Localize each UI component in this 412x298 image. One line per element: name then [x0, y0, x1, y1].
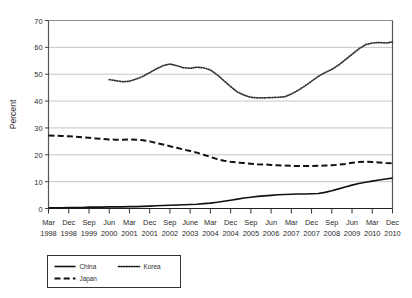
y-tick-label: 20 — [34, 151, 42, 160]
x-tick-label-year: 2009 — [344, 229, 360, 238]
x-tick-label-year: 2004 — [222, 229, 238, 238]
x-tick-label-month: Mar — [204, 218, 217, 227]
y-tick-label: 70 — [34, 17, 42, 26]
chart-legend: ChinaKoreaJapan — [48, 256, 181, 288]
x-tick-label-year: 1998 — [61, 229, 77, 238]
y-tick-label: 0 — [38, 205, 42, 214]
x-tick-label-month: Dec — [143, 218, 156, 227]
x-tick-label-month: Sep — [244, 218, 257, 227]
y-axis-ticks: 010203040506070 — [34, 17, 48, 214]
x-tick-label-year: 1998 — [40, 229, 56, 238]
x-tick-label-year: 1999 — [81, 229, 97, 238]
y-axis-title: Percent — [8, 99, 18, 129]
chart-container: 010203040506070 Mar1998Dec1998Sep1999Jun… — [0, 0, 412, 298]
y-tick-label: 40 — [34, 97, 42, 106]
plot-frame — [49, 21, 393, 209]
y-tick-label: 60 — [34, 43, 42, 52]
x-tick-label-year: 2006 — [263, 229, 279, 238]
x-tick-label-month: Mar — [123, 218, 136, 227]
x-tick-label-year: 2000 — [101, 229, 117, 238]
x-axis-ticks: Mar1998Dec1998Sep1999Jun2000Mar2001Dec20… — [40, 209, 400, 238]
legend-box — [48, 256, 181, 288]
x-tick-label-month: Jun — [265, 218, 277, 227]
x-tick-label-year: 2004 — [202, 229, 218, 238]
x-tick-label-month: Dec — [386, 218, 399, 227]
x-tick-label-month: Sep — [82, 218, 95, 227]
x-tick-label-year: 2010 — [384, 229, 400, 238]
x-tick-label-month: Dec — [224, 218, 237, 227]
x-tick-label-year: 2001 — [141, 229, 157, 238]
line-chart: 010203040506070 Mar1998Dec1998Sep1999Jun… — [0, 0, 412, 298]
x-tick-label-year: 2010 — [364, 229, 380, 238]
x-tick-label-year: 2007 — [303, 229, 319, 238]
gridlines-group — [49, 21, 393, 182]
x-tick-label-month: Dec — [62, 218, 75, 227]
x-tick-label-month: Mar — [42, 218, 55, 227]
x-tick-label-year: 2002 — [162, 229, 178, 238]
x-tick-label-month: Mar — [366, 218, 379, 227]
x-tick-label-year: 2005 — [243, 229, 259, 238]
x-tick-label-month: Jun — [346, 218, 358, 227]
x-tick-label-month: Sep — [325, 218, 338, 227]
x-tick-label-month: Jun — [103, 218, 115, 227]
legend-label-japan: Japan — [80, 275, 98, 283]
x-tick-label-month: Dec — [305, 218, 318, 227]
y-tick-label: 30 — [34, 124, 42, 133]
x-tick-label-month: Sep — [163, 218, 176, 227]
x-tick-label-year: 2001 — [121, 229, 137, 238]
x-tick-label-year: 2003 — [182, 229, 198, 238]
x-tick-label-year: 2008 — [324, 229, 340, 238]
y-tick-label: 50 — [34, 70, 42, 79]
x-tick-label-month: June — [182, 218, 198, 227]
y-axis-label: Percent — [8, 99, 18, 129]
legend-label-china: China — [80, 263, 97, 270]
series-line-japan — [49, 135, 393, 166]
x-tick-label-year: 2007 — [283, 229, 299, 238]
series-line-korea — [109, 42, 392, 98]
x-tick-label-month: Mar — [285, 218, 298, 227]
data-series-group — [49, 42, 393, 208]
series-line-china — [49, 178, 393, 208]
legend-label-korea: Korea — [144, 263, 161, 270]
y-tick-label: 10 — [34, 178, 42, 187]
